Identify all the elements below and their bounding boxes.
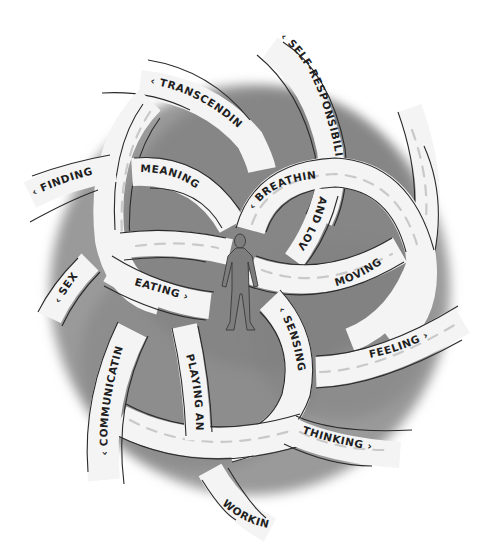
wellness-wheel-diagram: ‹ SELF-RESPONSIBILITY ‹ TRANSCENDING ‹ F… [0,0,488,546]
